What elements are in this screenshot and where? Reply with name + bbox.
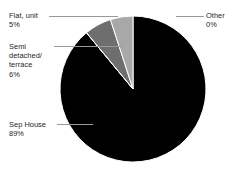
slice-label-other: Other 0% xyxy=(206,11,225,29)
slice-label-flat-unit: Flat, unit 5% xyxy=(9,11,38,29)
leader-line-flat-unit xyxy=(49,16,118,17)
leader-line-semi-detached xyxy=(54,46,122,47)
slice-label-sep-house: Sep House 89% xyxy=(9,120,46,138)
pie-slice-group xyxy=(60,16,206,162)
slice-label-semi-detached: Semi detached/ terrace 6% xyxy=(9,42,42,79)
leader-line-sep-house xyxy=(57,124,93,125)
leader-line-other xyxy=(176,16,204,17)
pie-chart-figure: Flat, unit 5% Semi detached/ terrace 6% … xyxy=(0,0,247,176)
